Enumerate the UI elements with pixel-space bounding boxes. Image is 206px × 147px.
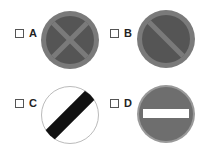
option-d-label: D (124, 97, 132, 109)
option-b-label: B (124, 27, 132, 39)
option-a-label: A (29, 27, 37, 39)
option-c[interactable]: C (15, 97, 37, 109)
clearway-sign-icon[interactable] (40, 10, 100, 70)
option-d-checkbox[interactable] (110, 99, 119, 108)
option-b[interactable]: B (110, 27, 132, 39)
option-d[interactable]: D (110, 97, 132, 109)
option-a-checkbox[interactable] (15, 29, 24, 38)
option-a[interactable]: A (15, 27, 37, 39)
no-entry-sign-icon[interactable] (136, 84, 196, 144)
national-speed-limit-sign-icon[interactable] (40, 85, 100, 145)
no-waiting-sign-icon[interactable] (136, 9, 196, 69)
option-b-checkbox[interactable] (110, 29, 119, 38)
option-c-label: C (29, 97, 37, 109)
option-c-checkbox[interactable] (15, 99, 24, 108)
